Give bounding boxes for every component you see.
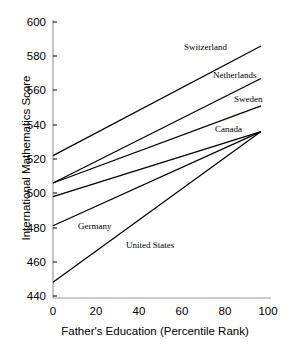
series-label-germany: Germany — [78, 221, 112, 231]
plot-area — [0, 0, 296, 354]
series-line-canada — [53, 132, 261, 197]
series-line-sweden — [53, 106, 261, 183]
series-label-netherlands: Netherlands — [213, 70, 256, 80]
series-label-united-states: United States — [126, 240, 174, 250]
series-label-sweden: Sweden — [234, 94, 263, 104]
series-line-united-states — [53, 132, 261, 283]
series-label-canada: Canada — [215, 124, 242, 134]
series-label-switzerland: Switzerland — [184, 42, 227, 52]
series-line-germany — [53, 132, 261, 226]
chart-container: International Mathematics Score 600 580 … — [0, 0, 296, 354]
series-line-switzerland — [53, 46, 261, 156]
